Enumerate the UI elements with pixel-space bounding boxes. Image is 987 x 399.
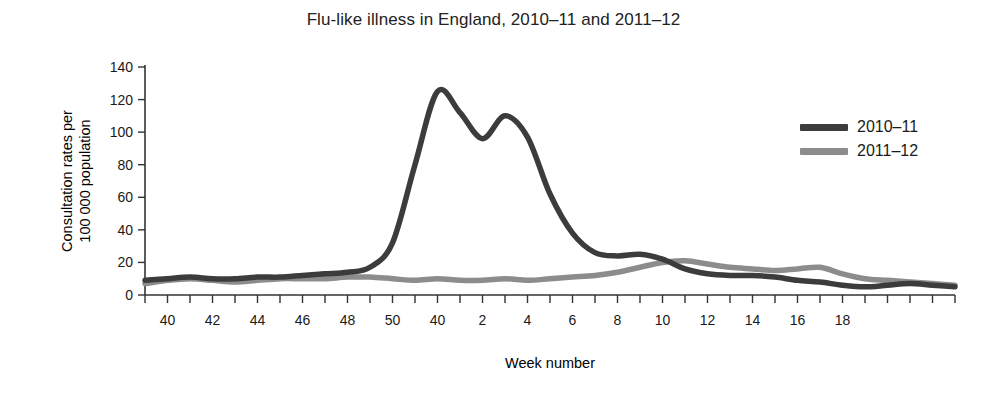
x-tick-label: 4 [524, 312, 532, 328]
legend-label-2011-12: 2011–12 [857, 143, 918, 159]
x-tick-label: 2 [479, 312, 487, 328]
y-tick-label: 80 [117, 157, 133, 173]
x-tick-label: 42 [205, 312, 221, 328]
y-axis-title-line-1: Consultation rates per [59, 110, 75, 252]
x-tick-label: 46 [295, 312, 311, 328]
x-tick-label: 16 [790, 312, 806, 328]
legend-label-2010-11: 2010–11 [857, 119, 918, 135]
x-axis: 4042444648504024681012141618 [145, 295, 955, 328]
legend-swatch-2011-12 [800, 148, 848, 155]
y-tick-label: 40 [117, 222, 133, 238]
x-tick-label: 50 [385, 312, 401, 328]
x-tick-label: 44 [250, 312, 266, 328]
x-axis-title: Week number [505, 355, 595, 371]
legend-item-2010-11[interactable]: 2010–11 [800, 115, 975, 139]
line-chart-plot: 020406080100120140 404244464850402468101… [0, 0, 987, 399]
x-tick-label: 40 [160, 312, 176, 328]
x-tick-label: 10 [655, 312, 671, 328]
x-tick-label: 14 [745, 312, 761, 328]
y-tick-label: 20 [117, 254, 133, 270]
x-tick-label: 6 [569, 312, 577, 328]
y-tick-label: 100 [110, 124, 134, 140]
y-tick-label: 60 [117, 189, 133, 205]
x-tick-label: 8 [614, 312, 622, 328]
legend-swatch-2010-11 [800, 124, 848, 131]
y-axis-title-line-2: 100 000 population [77, 119, 93, 242]
x-tick-label: 18 [835, 312, 851, 328]
legend-item-2011-12[interactable]: 2011–12 [800, 139, 975, 163]
y-tick-label: 120 [110, 92, 134, 108]
y-tick-label: 0 [125, 287, 133, 303]
axis-titles: Week numberConsultation rates per100 000… [59, 110, 595, 371]
x-tick-label: 12 [700, 312, 716, 328]
x-tick-label: 48 [340, 312, 356, 328]
chart-legend: 2010–11 2011–12 [800, 115, 975, 163]
y-axis: 020406080100120140 [110, 59, 145, 303]
chart-figure: Flu-like illness in England, 2010–11 and… [0, 0, 987, 399]
x-tick-label: 40 [430, 312, 446, 328]
y-tick-label: 140 [110, 59, 134, 75]
